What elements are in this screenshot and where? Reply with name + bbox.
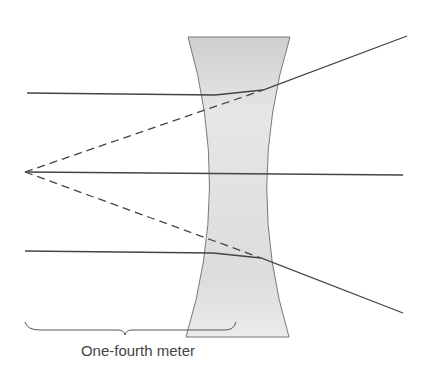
distance-caption: One-fourth meter bbox=[38, 342, 238, 359]
concave-lens bbox=[186, 37, 290, 337]
lens-diagram bbox=[0, 0, 435, 370]
